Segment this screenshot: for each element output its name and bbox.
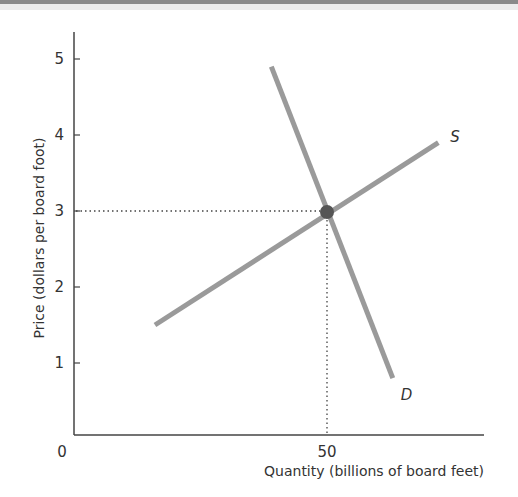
y-tick-label: 3 (54, 202, 64, 220)
equilibrium-point (320, 205, 334, 219)
supply-label: S (450, 128, 460, 146)
y-tick-label: 5 (54, 50, 64, 68)
x-tick-label: 0 (57, 443, 67, 461)
supply-demand-chart: 12345 050 SD Price (dollars per board fo… (0, 0, 518, 497)
demand-label: D (401, 386, 413, 404)
demand-curve (271, 67, 392, 379)
y-axis-title: Price (dollars per board foot) (31, 138, 47, 339)
curves: SD (155, 67, 460, 405)
supply-curve (155, 143, 438, 325)
x-tick-label: 50 (317, 443, 336, 461)
x-axis-title: Quantity (billions of board feet) (264, 463, 484, 479)
x-ticks: 050 (57, 443, 336, 461)
y-tick-label: 2 (54, 278, 64, 296)
equilibrium-guides (76, 211, 327, 433)
y-tick-label: 4 (54, 126, 64, 144)
y-tick-label: 1 (54, 354, 64, 372)
